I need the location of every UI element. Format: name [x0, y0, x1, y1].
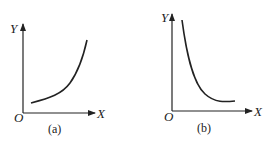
panel-caption: (b) — [197, 121, 211, 135]
y-axis-label: Y — [10, 21, 19, 36]
y-axis-label: Y — [161, 10, 170, 25]
x-axis-label: X — [96, 106, 106, 121]
figure: Y X O (a) Y X O (b) — [0, 0, 274, 144]
origin-label: O — [164, 109, 174, 124]
panel-caption: (a) — [48, 122, 61, 136]
panel-b: Y X O (b) — [161, 10, 263, 135]
decay-curve — [182, 20, 235, 102]
growth-curve — [31, 40, 87, 103]
origin-label: O — [14, 110, 24, 125]
panel-a: Y X O (a) — [10, 21, 106, 136]
x-axis-label: X — [253, 104, 263, 119]
